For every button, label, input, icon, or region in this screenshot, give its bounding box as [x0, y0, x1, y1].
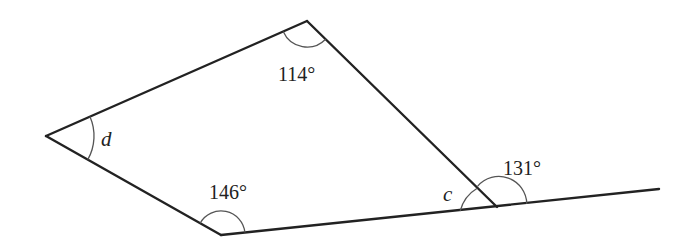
angle-label-right-interior: c: [443, 182, 453, 206]
geometry-diagram: 114° d 146° c 131°: [0, 0, 689, 245]
edge-top-left: [46, 21, 307, 136]
angle-arc-right-exterior: [478, 176, 527, 204]
edge-top-right: [307, 21, 497, 207]
angle-arc-bottom: [200, 211, 245, 233]
angle-label-top: 114°: [278, 63, 315, 85]
angle-label-right-exterior: 131°: [503, 157, 541, 179]
quadrilateral-figure: 114° d 146° c 131°: [0, 0, 689, 245]
edge-left-bottom: [46, 136, 221, 235]
angle-arc-left: [88, 117, 94, 160]
edge-bottom-extension: [221, 189, 659, 235]
angle-label-left: d: [101, 127, 112, 151]
angle-label-bottom: 146°: [209, 181, 247, 203]
